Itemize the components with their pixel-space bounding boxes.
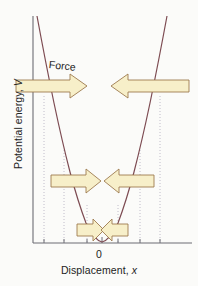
arrow-inner-right (101, 219, 128, 241)
y-axis-label-text: Potential energy, (12, 86, 24, 169)
y-axis-label: Potential energy, V (12, 54, 24, 194)
y-axis-label-symbol: V (12, 79, 24, 86)
x-axis-label-text: Displacement, (61, 264, 132, 276)
origin-tick-label: 0 (0, 248, 198, 260)
arrow-middle-left (51, 169, 101, 193)
potential-energy-curve (37, 16, 167, 242)
potential-energy-figure: Force Potential energy, V 0 Displacement… (0, 0, 198, 286)
grid-lines (44, 96, 160, 243)
arrow-outer-left (16, 74, 87, 98)
x-axis-label: Displacement, x (0, 264, 198, 276)
x-axis-label-symbol: x (132, 264, 137, 276)
arrow-inner-left (77, 219, 104, 241)
axes-lines (33, 16, 192, 243)
arrow-outer-right (111, 74, 189, 98)
plot-canvas (0, 0, 198, 286)
